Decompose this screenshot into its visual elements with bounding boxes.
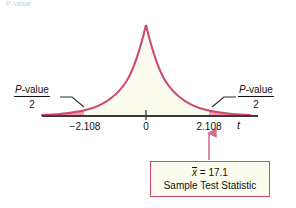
p-value-numerator-right: P-value bbox=[238, 84, 274, 97]
tick-label-negative-critical: −2.108 bbox=[60, 121, 110, 132]
p-value-rest-right: -value bbox=[246, 84, 273, 95]
p-value-over-two-left: P-value 2 bbox=[14, 84, 50, 110]
tick-label-zero: 0 bbox=[131, 121, 161, 132]
p-value-rest-left: -value bbox=[22, 84, 49, 95]
p-value-denominator-left: 2 bbox=[14, 97, 50, 110]
x-bar-symbol: x bbox=[192, 167, 197, 179]
tick-label-positive-critical: 2.108 bbox=[186, 121, 232, 132]
p-value-denominator-right: 2 bbox=[238, 97, 274, 110]
statistics-figure: P-value bbox=[0, 0, 296, 208]
p-value-numerator-left: P-value bbox=[14, 84, 50, 97]
p-value-over-two-right: P-value 2 bbox=[238, 84, 274, 110]
callout-statistic-value: x = 17.1 bbox=[192, 167, 228, 179]
axis-variable-label: t bbox=[237, 120, 240, 131]
callout-statistic-text: = 17.1 bbox=[200, 167, 228, 178]
sample-test-statistic-callout: x = 17.1 Sample Test Statistic bbox=[150, 161, 270, 197]
right-label-leader-line bbox=[212, 97, 236, 107]
callout-caption: Sample Test Statistic bbox=[164, 180, 257, 191]
p-italic-left: P bbox=[15, 84, 22, 95]
left-label-leader-line bbox=[60, 97, 84, 107]
p-italic-right: P bbox=[239, 84, 246, 95]
